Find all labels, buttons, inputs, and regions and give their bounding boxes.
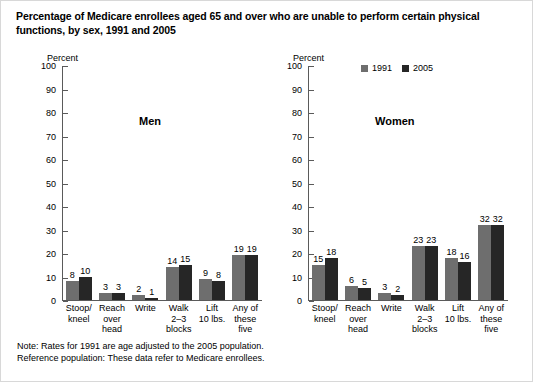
y-tick-label: 80	[46, 108, 56, 118]
x-category-label: Any of these five	[226, 303, 265, 335]
y-tick-label: 50	[46, 179, 56, 189]
bar-value-label: 3	[103, 282, 108, 292]
legend-swatch-icon	[402, 65, 409, 72]
bar-pair: 3232	[478, 65, 504, 300]
bar-pair: 33	[99, 65, 125, 300]
chart-footnotes: Note: Rates for 1991 are age adjusted to…	[17, 340, 264, 364]
y-tick-label: 60	[46, 155, 56, 165]
y-tick-label: 80	[292, 108, 302, 118]
chart-legend: 19912005	[361, 63, 433, 73]
legend-item[interactable]: 2005	[402, 63, 433, 73]
chart-title: Percentage of Medicare enrollees aged 65…	[16, 10, 516, 37]
plot-area-women: 1009080706050403020100 15186532232318163…	[308, 66, 508, 301]
y-tick-mark	[63, 301, 68, 302]
bar-value-label: 2	[136, 284, 141, 294]
bar[interactable]: 16	[458, 262, 471, 300]
bar-value-label: 32	[493, 214, 503, 224]
y-tick-label: 70	[292, 132, 302, 142]
bar-pair: 1919	[232, 65, 258, 300]
bar-value-label: 14	[167, 256, 177, 266]
bar-value-label: 15	[313, 254, 323, 264]
x-axis-line-women	[308, 300, 508, 301]
bar-pair: 65	[345, 65, 371, 300]
y-tick-label: 30	[292, 226, 302, 236]
y-tick-label: 70	[46, 132, 56, 142]
y-tick-label: 50	[292, 179, 302, 189]
bar[interactable]: 23	[412, 246, 425, 300]
y-tick-label: 60	[292, 155, 302, 165]
bar[interactable]: 6	[345, 286, 358, 300]
bar-pair: 1518	[312, 65, 338, 300]
bar-value-label: 23	[413, 235, 423, 245]
legend-label: 2005	[413, 63, 433, 73]
bar[interactable]: 15	[179, 265, 192, 300]
y-tick-label: 0	[297, 296, 302, 306]
y-tick-label: 40	[46, 202, 56, 212]
bar-value-label: 6	[349, 275, 354, 285]
bar[interactable]: 32	[478, 225, 491, 300]
bar[interactable]: 10	[79, 277, 92, 301]
bar[interactable]: 1	[145, 298, 158, 300]
bar-value-label: 18	[326, 247, 336, 257]
plot-area-men: 1009080706050403020100 81033211415981919	[62, 66, 262, 301]
bar[interactable]: 2	[132, 295, 145, 300]
y-tick-label: 100	[287, 61, 302, 71]
bar[interactable]: 9	[199, 279, 212, 300]
bar[interactable]: 18	[445, 258, 458, 300]
y-tick-mark	[309, 301, 314, 302]
bar-value-label: 19	[234, 244, 244, 254]
bar-value-label: 8	[216, 270, 221, 280]
y-tick-label: 90	[292, 85, 302, 95]
bar[interactable]: 18	[325, 258, 338, 300]
footnote-note: Note: Rates for 1991 are age adjusted to…	[17, 340, 264, 352]
bar-value-label: 32	[480, 214, 490, 224]
bar-value-label: 2	[395, 284, 400, 294]
bar-pair: 21	[132, 65, 158, 300]
y-tick-label: 90	[46, 85, 56, 95]
x-category-label: Any of these five	[472, 303, 511, 335]
y-tick-label: 100	[41, 61, 56, 71]
bar-value-label: 10	[80, 266, 90, 276]
y-tick-label: 40	[292, 202, 302, 212]
bar[interactable]: 8	[212, 281, 225, 300]
bar-value-label: 19	[247, 244, 257, 254]
y-tick-label: 10	[292, 273, 302, 283]
bar[interactable]: 3	[112, 293, 125, 300]
y-tick: 0	[308, 301, 314, 302]
bar-value-label: 3	[382, 282, 387, 292]
bar[interactable]: 14	[166, 267, 179, 300]
y-tick-label: 0	[51, 296, 56, 306]
bar-value-label: 8	[70, 270, 75, 280]
legend-item[interactable]: 1991	[361, 63, 392, 73]
bar-pair: 2323	[412, 65, 438, 300]
bar-pair: 810	[66, 65, 92, 300]
bar-value-label: 18	[446, 247, 456, 257]
bar[interactable]: 8	[66, 281, 79, 300]
bar-value-label: 3	[116, 282, 121, 292]
bar-pair: 32	[378, 65, 404, 300]
bar[interactable]: 23	[425, 246, 438, 300]
bar[interactable]: 3	[99, 293, 112, 300]
bar-pair: 98	[199, 65, 225, 300]
y-tick-label: 10	[46, 273, 56, 283]
bar[interactable]: 19	[245, 255, 258, 300]
y-tick-label: 20	[46, 249, 56, 259]
footnote-reference: Reference population: These data refer t…	[17, 352, 264, 364]
bar[interactable]: 3	[378, 293, 391, 300]
bar-pair: 1415	[166, 65, 192, 300]
bar-value-label: 16	[459, 251, 469, 261]
bar-pair: 1816	[445, 65, 471, 300]
y-tick: 0	[62, 301, 68, 302]
bar-value-label: 23	[426, 235, 436, 245]
bar-value-label: 1	[149, 287, 154, 297]
bar[interactable]: 32	[491, 225, 504, 300]
bar[interactable]: 5	[358, 288, 371, 300]
legend-label: 1991	[372, 63, 392, 73]
legend-swatch-icon	[361, 65, 368, 72]
bar-value-label: 9	[203, 268, 208, 278]
x-axis-line-men	[62, 300, 262, 301]
y-tick-label: 20	[292, 249, 302, 259]
bar[interactable]: 19	[232, 255, 245, 300]
bar[interactable]: 2	[391, 295, 404, 300]
bar[interactable]: 15	[312, 265, 325, 300]
